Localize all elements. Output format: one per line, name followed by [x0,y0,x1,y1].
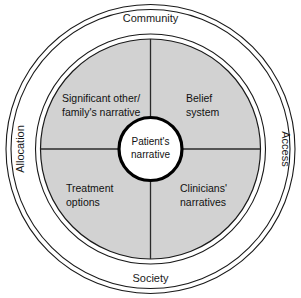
diagram-canvas: Patient's narrative Significant other/ f… [0,0,301,298]
ring-label-society: Society [132,272,169,284]
quadrant-label-significant-other-line1: Significant other/ [62,92,140,104]
quadrant-label-belief-system-line2: system [186,106,220,118]
quadrant-label-belief-system-line1: Belief [186,92,212,104]
ring-label-allocation: Allocation [14,125,26,173]
center-label-line1: Patient's [131,136,169,147]
quadrant-label-clinicians-narratives-line1: Clinicians' [180,182,227,194]
quadrant-label-treatment-options-line2: options [66,196,100,208]
ring-label-community: Community [123,12,179,24]
quadrant-label-clinicians-narratives-line2: narratives [180,196,226,208]
narrative-wheel-diagram: Patient's narrative Significant other/ f… [0,0,301,298]
quadrant-label-significant-other-line2: family's narrative [62,106,141,118]
center-label-line2: narrative [131,149,170,160]
quadrant-label-treatment-options-line1: Treatment [66,182,114,194]
ring-label-access: Access [280,131,292,167]
